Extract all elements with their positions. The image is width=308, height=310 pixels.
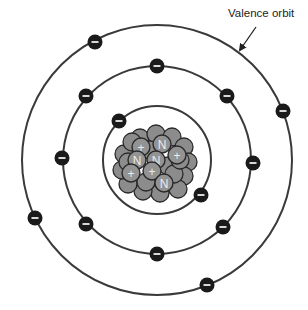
electron-icon	[200, 278, 215, 293]
electron-icon	[276, 104, 291, 119]
neutron-icon: N	[153, 135, 171, 153]
proton-icon: +	[122, 164, 140, 182]
electron-icon	[79, 217, 94, 232]
electron-icon	[28, 211, 43, 226]
electron-icon	[246, 156, 261, 171]
svg-text:N: N	[160, 177, 169, 191]
electron-icon	[79, 89, 94, 104]
valence-orbit-label: Valence orbit	[228, 7, 295, 19]
svg-text:+: +	[148, 165, 155, 179]
svg-text:N: N	[158, 138, 167, 152]
electron-icon	[150, 59, 165, 74]
svg-text:+: +	[173, 149, 180, 163]
neutron-icon: N	[155, 174, 173, 192]
electron-icon	[150, 247, 165, 262]
electron-icon	[194, 188, 209, 203]
nucleus: +N+NN++N	[113, 125, 197, 202]
svg-text:+: +	[127, 167, 134, 181]
electron-icon	[88, 35, 103, 50]
electron-icon	[220, 89, 235, 104]
electron-icon	[55, 151, 70, 166]
atom-diagram: +N+NN++N Valence orbit	[0, 0, 308, 310]
valence-arrow	[240, 27, 256, 50]
proton-icon: +	[168, 146, 186, 164]
electron-icon	[216, 220, 231, 235]
electron-icon	[112, 114, 127, 129]
